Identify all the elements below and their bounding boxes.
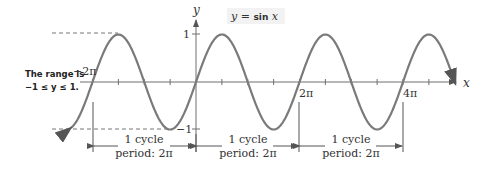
y-axis-label: y xyxy=(192,3,200,17)
x-tick-label-4pi: 4π xyxy=(403,87,417,100)
equation-label: y = sin x xyxy=(230,10,279,23)
cycle-1-label: 1 cycle xyxy=(124,133,163,146)
cycle-3-period: period: 2π xyxy=(322,147,379,160)
y-tick-label-neg1: −1 xyxy=(176,123,192,136)
x-tick-label-2pi: 2π xyxy=(299,87,313,100)
cycle-2-period: period: 2π xyxy=(219,147,276,160)
x-axis-label: x xyxy=(463,76,470,90)
range-note-line2: −1 ≤ y ≤ 1. xyxy=(25,82,79,92)
y-tick-label-1: 1 xyxy=(183,28,190,41)
cycle-2-label: 1 cycle xyxy=(228,133,267,146)
cycle-3-label: 1 cycle xyxy=(331,133,370,146)
range-note-line1: The range is xyxy=(25,69,84,79)
sine-graph: y x 1 −1 −2π 2π 4π y = sin x The range i… xyxy=(0,0,487,170)
cycle-1-period: period: 2π xyxy=(115,147,172,160)
